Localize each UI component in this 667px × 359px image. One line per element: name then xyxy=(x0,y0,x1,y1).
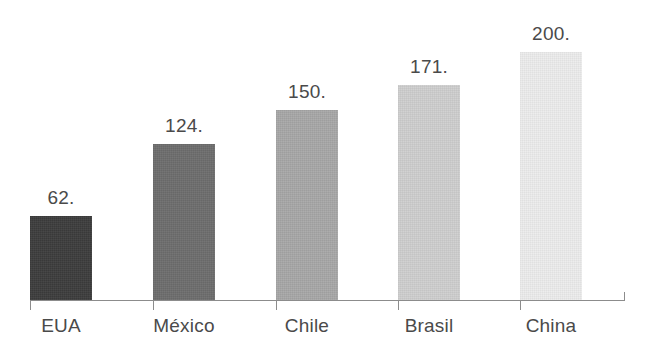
bar-group-chile: 150. Chile xyxy=(276,0,338,359)
axis-label-chile: Chile xyxy=(285,315,329,337)
axis-label-brasil: Brasil xyxy=(405,315,454,337)
plot-area: 62. EUA 124. México 150. Chile 171. Bras… xyxy=(0,0,667,359)
x-axis-tick-china xyxy=(520,301,521,310)
x-axis-line xyxy=(30,300,625,301)
x-axis-tick-chile xyxy=(276,301,277,310)
bar-value-chile: 150. xyxy=(288,81,326,103)
bar-chile[interactable] xyxy=(276,110,338,301)
bar-group-mexico: 124. México xyxy=(153,0,215,359)
bar-brasil[interactable] xyxy=(398,85,460,301)
bar-chart: 62. EUA 124. México 150. Chile 171. Bras… xyxy=(0,0,667,359)
bar-group-brasil: 171. Brasil xyxy=(398,0,460,359)
axis-label-china: China xyxy=(526,315,577,337)
bar-value-eua: 62. xyxy=(47,187,74,209)
bar-value-china: 200. xyxy=(532,23,570,45)
bar-value-mexico: 124. xyxy=(165,115,203,137)
x-axis-tick-mexico xyxy=(153,301,154,310)
bar-group-eua: 62. EUA xyxy=(30,0,92,359)
bar-value-brasil: 171. xyxy=(410,56,448,78)
bar-mexico[interactable] xyxy=(153,144,215,301)
x-axis-tick-eua xyxy=(30,301,31,310)
x-axis-end-tick xyxy=(624,292,625,301)
axis-label-eua: EUA xyxy=(41,315,81,337)
bar-china[interactable] xyxy=(520,52,582,301)
axis-label-mexico: México xyxy=(153,315,214,337)
bar-group-china: 200. China xyxy=(520,0,582,359)
x-axis-tick-brasil xyxy=(398,301,399,310)
bar-eua[interactable] xyxy=(30,216,92,301)
